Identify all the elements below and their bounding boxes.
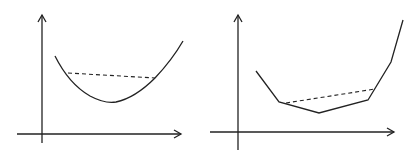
convex-polyline [256,20,403,113]
panel-piecewise-convex [210,15,403,150]
secant-line [286,89,375,103]
panel-smooth-convex [17,15,183,143]
diagram-canvas [0,0,419,158]
secant-line [68,73,155,78]
convex-curve [55,41,183,102]
